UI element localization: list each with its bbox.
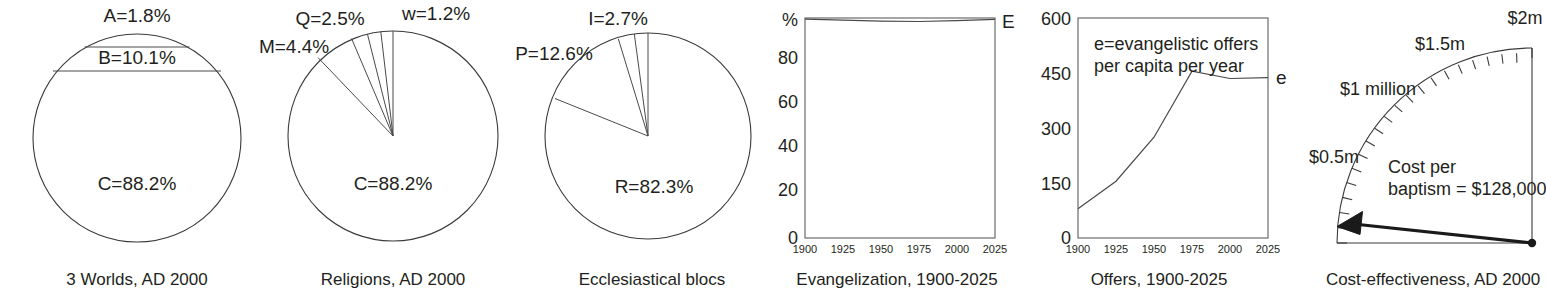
evangelization-ytick-percent: % — [782, 10, 798, 30]
evangelization-ytick-80: 80 — [778, 48, 798, 68]
religions-radius-1 — [381, 32, 393, 136]
religions-radius-4 — [318, 58, 393, 136]
offers-series-label: e — [1276, 67, 1287, 88]
panel-evangelization: % 80 60 40 20 0 1900 1925 1950 1975 2000… — [766, 0, 1028, 291]
label-three-worlds-a: A=1.8% — [103, 5, 170, 26]
caption-offers: Offers, 1900-2025 — [1091, 270, 1228, 289]
offers-xtick-1950: 1950 — [1142, 243, 1166, 255]
chart-offers: e=evangelistic offers per capita per yea… — [1028, 0, 1300, 291]
dial-label-1-5m: $1.5m — [1415, 34, 1465, 54]
label-ecclesiastical-p: P=12.6% — [515, 43, 593, 64]
dial-label-0-5m: $0.5m — [1309, 147, 1359, 167]
dial-label-1-million: $1 million — [1340, 79, 1416, 99]
label-ecclesiastical-i: I=2.7% — [588, 8, 648, 29]
chart-three-worlds: A=1.8% B=10.1% C=88.2% 3 Worlds, AD 2000 — [0, 0, 262, 291]
label-religions-m: M=4.4% — [259, 36, 329, 57]
evangelization-ytick-20: 20 — [778, 180, 798, 200]
dial-pivot — [1528, 239, 1536, 247]
evangelization-ytick-60: 60 — [778, 92, 798, 112]
panel-cost-effectiveness: $0.5m $1 million $1.5m $2m Cost per bapt… — [1300, 0, 1546, 291]
evangelization-xtick-2025: 2025 — [983, 243, 1007, 255]
evangelization-xtick-1975: 1975 — [907, 243, 931, 255]
offers-ytick-300: 300 — [1041, 119, 1071, 139]
chart-ecclesiastical-blocs: I=2.7% P=12.6% R=82.3% Ecclesiastical bl… — [524, 0, 776, 291]
chart-cost-effectiveness: $0.5m $1 million $1.5m $2m Cost per bapt… — [1300, 0, 1546, 291]
evangelization-ytick-40: 40 — [778, 136, 798, 156]
offers-series-e — [1078, 71, 1268, 209]
caption-evangelization: Evangelization, 1900-2025 — [796, 270, 997, 289]
figure-root: A=1.8% B=10.1% C=88.2% 3 Worlds, AD 2000… — [0, 0, 1546, 291]
dial-needle — [1349, 224, 1532, 244]
ecclesiastical-radius-1 — [634, 34, 648, 136]
label-three-worlds-c: C=88.2% — [98, 173, 177, 194]
evangelization-plot-frame — [805, 18, 995, 238]
ecclesiastical-radius-3 — [555, 99, 648, 137]
caption-ecclesiastical-blocs: Ecclesiastical blocs — [579, 270, 725, 289]
label-religions-q: Q=2.5% — [295, 8, 364, 29]
chart-evangelization: % 80 60 40 20 0 1900 1925 1950 1975 2000… — [766, 0, 1028, 291]
dial-note-line1: Cost per — [1388, 157, 1456, 177]
label-religions-c: C=88.2% — [354, 173, 433, 194]
evangelization-xtick-1950: 1950 — [869, 243, 893, 255]
dial-label-2m: $2m — [1507, 8, 1542, 28]
offers-note-line2: per capita per year — [1094, 56, 1244, 76]
dial-tick-group — [1337, 48, 1532, 243]
offers-xtick-1900: 1900 — [1066, 243, 1090, 255]
label-three-worlds-b: B=10.1% — [98, 47, 176, 68]
evangelization-xtick-2000: 2000 — [945, 243, 969, 255]
dial-note-line2: baptism = $128,000 — [1388, 179, 1546, 199]
caption-cost-effectiveness: Cost-effectiveness, AD 2000 — [1326, 270, 1540, 289]
offers-ytick-450: 450 — [1041, 64, 1071, 84]
offers-xtick-2000: 2000 — [1218, 243, 1242, 255]
evangelization-series-label: E — [1002, 11, 1015, 32]
offers-xtick-2025: 2025 — [1256, 243, 1280, 255]
dial-arc — [1337, 48, 1532, 243]
dial-needle-arrowhead — [1337, 212, 1363, 235]
evangelization-series-E — [805, 19, 995, 21]
evangelization-xtick-1900: 1900 — [793, 243, 817, 255]
offers-note-line1: e=evangelistic offers — [1094, 34, 1258, 54]
evangelization-xtick-1925: 1925 — [831, 243, 855, 255]
panel-offers: e=evangelistic offers per capita per yea… — [1028, 0, 1300, 291]
label-religions-w: w=1.2% — [401, 3, 470, 24]
panel-religions: Q=2.5% M=4.4% w=1.2% C=88.2% Religions, … — [262, 0, 524, 291]
chart-religions: Q=2.5% M=4.4% w=1.2% C=88.2% Religions, … — [262, 0, 524, 291]
offers-xtick-1975: 1975 — [1180, 243, 1204, 255]
offers-ytick-600: 600 — [1041, 9, 1071, 29]
caption-religions: Religions, AD 2000 — [321, 270, 466, 289]
panel-three-worlds: A=1.8% B=10.1% C=88.2% 3 Worlds, AD 2000 — [0, 0, 262, 291]
offers-ytick-150: 150 — [1041, 174, 1071, 194]
offers-xtick-1925: 1925 — [1104, 243, 1128, 255]
caption-three-worlds: 3 Worlds, AD 2000 — [66, 270, 207, 289]
panel-ecclesiastical-blocs: I=2.7% P=12.6% R=82.3% Ecclesiastical bl… — [524, 0, 776, 291]
label-ecclesiastical-r: R=82.3% — [615, 176, 694, 197]
ecclesiastical-radius-2 — [618, 39, 648, 136]
